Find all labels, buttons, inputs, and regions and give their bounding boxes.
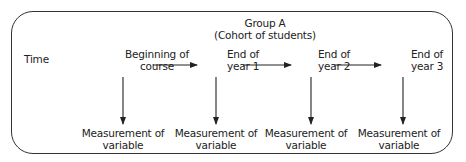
arrows-layer [0,0,466,162]
